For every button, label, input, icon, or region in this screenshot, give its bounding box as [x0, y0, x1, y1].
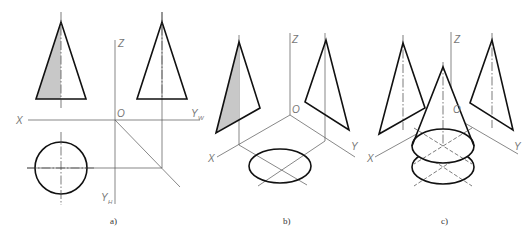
cone-projection-figure: Z O X Y W Y H a) Z O X Y b) [0, 0, 528, 236]
yh-subscript: H [108, 199, 113, 205]
ground-line-from-side-b [258, 141, 325, 186]
caption-b: b) [283, 216, 291, 226]
caption-c: c) [441, 216, 448, 226]
x-label-a: X [15, 115, 23, 126]
origin-label-c: O [453, 104, 461, 115]
caption-a: a) [110, 216, 117, 226]
diagonal-45-line [115, 120, 180, 187]
z-label-a: Z [117, 38, 125, 49]
z-label-b: Z [291, 34, 299, 45]
x-label-c: X [366, 153, 374, 164]
origin-label-a: O [117, 108, 125, 119]
y-label-b: Y [351, 141, 359, 152]
right-projection-triangle [470, 40, 513, 130]
y-axis-b [290, 115, 355, 157]
z-label-c: Z [453, 34, 461, 45]
side-projection-triangle [305, 40, 349, 130]
top-projection-ellipse [249, 149, 311, 183]
yw-subscript: W [198, 115, 205, 121]
y-label-c: Y [514, 141, 522, 152]
panel-a: Z O X Y W Y H a) [15, 12, 205, 226]
panel-b: Z O X Y b) [207, 33, 359, 226]
x-label-b: X [207, 153, 215, 164]
panel-c: Z O X Y c) [366, 32, 522, 226]
left-projection-triangle [379, 43, 425, 134]
origin-label-b: O [292, 104, 300, 115]
